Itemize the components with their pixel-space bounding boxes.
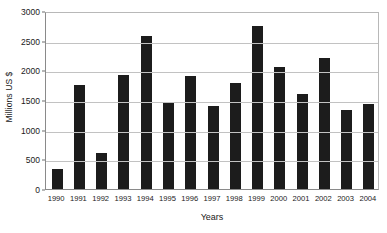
x-axis-tick-label: 1990 bbox=[48, 193, 65, 205]
bar bbox=[230, 83, 241, 189]
y-axis-tick-label: 3000 bbox=[12, 8, 40, 17]
y-axis-tick-labels: 050010001500200025003000 bbox=[14, 12, 42, 190]
x-axis-tick-label: 1999 bbox=[248, 193, 265, 205]
bar bbox=[363, 104, 374, 189]
bar bbox=[208, 106, 219, 189]
bar bbox=[274, 67, 285, 189]
y-axis-tick-mark bbox=[42, 12, 45, 13]
bars-layer bbox=[46, 13, 378, 189]
x-axis-tick-label: 1997 bbox=[204, 193, 221, 205]
x-axis-tick-label: 1993 bbox=[114, 193, 131, 205]
bar bbox=[141, 36, 152, 189]
bar bbox=[96, 153, 107, 189]
x-axis-tick-label: 1996 bbox=[181, 193, 198, 205]
gridline bbox=[46, 161, 378, 162]
y-axis-tick-label: 500 bbox=[12, 156, 40, 165]
y-axis-tick-label: 1500 bbox=[12, 97, 40, 106]
x-axis-tick-label: 2003 bbox=[337, 193, 354, 205]
x-axis-tick-label: 1992 bbox=[92, 193, 109, 205]
bar-chart: Millions US $ 050010001500200025003000 1… bbox=[0, 0, 387, 233]
x-axis-tick-label: 1998 bbox=[226, 193, 243, 205]
y-axis-tick-mark bbox=[42, 101, 45, 102]
x-axis-tick-label: 2001 bbox=[293, 193, 310, 205]
x-axis-tick-labels: 1990199119921993199419951996199719981999… bbox=[45, 193, 379, 207]
bar bbox=[319, 58, 330, 189]
bar bbox=[252, 26, 263, 189]
y-axis-tick-mark bbox=[42, 71, 45, 72]
y-axis-tick-label: 2000 bbox=[12, 67, 40, 76]
x-axis-title: Years bbox=[45, 211, 379, 223]
y-axis-tick-label: 0 bbox=[12, 186, 40, 195]
x-axis-tick-label: 1995 bbox=[159, 193, 176, 205]
gridline bbox=[46, 102, 378, 103]
y-axis-tick-mark bbox=[42, 41, 45, 42]
y-axis-tick-label: 2500 bbox=[12, 37, 40, 46]
bar bbox=[341, 110, 352, 189]
y-axis-tick-mark bbox=[42, 160, 45, 161]
bar bbox=[74, 85, 85, 189]
gridline bbox=[46, 132, 378, 133]
gridline bbox=[46, 43, 378, 44]
x-axis-tick-label: 1991 bbox=[70, 193, 87, 205]
y-axis-tick-mark bbox=[42, 190, 45, 191]
x-axis-tick-label: 2000 bbox=[270, 193, 287, 205]
y-axis-tick-label: 1000 bbox=[12, 126, 40, 135]
x-axis-tick-label: 2004 bbox=[359, 193, 376, 205]
plot-area bbox=[45, 12, 379, 190]
bar bbox=[297, 94, 308, 189]
bar bbox=[163, 102, 174, 189]
bar bbox=[52, 169, 63, 189]
x-axis-tick-label: 1994 bbox=[137, 193, 154, 205]
y-axis-tick-mark bbox=[42, 130, 45, 131]
gridline bbox=[46, 72, 378, 73]
x-axis-tick-label: 2002 bbox=[315, 193, 332, 205]
